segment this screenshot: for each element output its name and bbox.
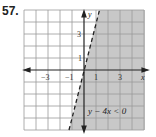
x-axis-label: x (140, 73, 145, 82)
y-tick-label: 1 (78, 54, 82, 63)
x-tick-label: 1 (94, 73, 98, 82)
x-tick-label: −3 (41, 73, 50, 82)
x-tick-label: 3 (118, 73, 122, 82)
inequality-graph: −3 −1 1 3 x 1 3 y y − 4x < 0 (0, 0, 156, 137)
inequality-label: y − 4x < 0 (87, 106, 127, 116)
y-axis-label: y (87, 10, 92, 19)
y-tick-label: 3 (77, 30, 81, 39)
x-tick-label: −1 (65, 73, 74, 82)
